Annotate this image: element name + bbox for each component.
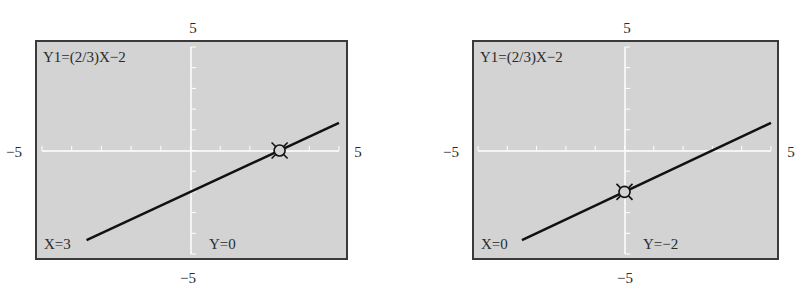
xmin-label: −5 <box>443 144 459 160</box>
graph-panel-left: Y1=(2/3)X−2X=3Y=05−5−55 <box>6 20 362 286</box>
trace-cursor-icon <box>619 186 630 197</box>
ymin-label: −5 <box>180 270 196 286</box>
calculator-graphs: Y1=(2/3)X−2X=3Y=05−5−55 Y1=(2/3)X−2X=0Y=… <box>0 0 800 300</box>
equation-label: Y1=(2/3)X−2 <box>480 49 563 66</box>
xmax-label: 5 <box>354 144 362 160</box>
ymax-label: 5 <box>623 20 631 36</box>
trace-x-label: X=3 <box>44 236 71 252</box>
trace-cursor-icon <box>274 145 285 156</box>
trace-y-label: Y=−2 <box>643 236 678 252</box>
xmin-label: −5 <box>6 144 22 160</box>
trace-y-label: Y=0 <box>209 236 236 252</box>
ymax-label: 5 <box>189 20 197 36</box>
graph-panel-right: Y1=(2/3)X−2X=0Y=−25−5−55 <box>443 20 795 286</box>
ymin-label: −5 <box>617 270 633 286</box>
xmax-label: 5 <box>787 144 795 160</box>
equation-label: Y1=(2/3)X−2 <box>43 49 126 66</box>
trace-x-label: X=0 <box>481 236 508 252</box>
